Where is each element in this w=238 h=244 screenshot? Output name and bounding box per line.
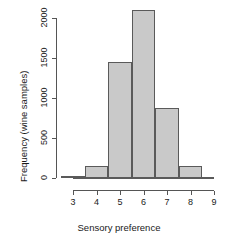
x-axis-tick	[167, 191, 168, 195]
x-axis-tick	[97, 191, 98, 195]
y-axis-tick	[52, 18, 56, 19]
baseline	[73, 177, 214, 179]
y-axis-tick	[52, 138, 56, 139]
y-axis-tick-label: 500	[40, 123, 49, 153]
x-axis-tick	[73, 191, 74, 195]
x-axis-tick-label: 5	[110, 198, 130, 207]
x-axis-tick-label: 9	[204, 198, 224, 207]
histogram-bar	[132, 10, 156, 178]
x-axis-tick-label: 4	[87, 198, 107, 207]
x-axis-tick	[214, 191, 215, 195]
x-axis-tick-label: 7	[157, 198, 177, 207]
x-axis-tick	[191, 191, 192, 195]
y-axis-tick-label: 0	[40, 163, 49, 193]
y-axis-tick-label: 2000	[40, 3, 49, 33]
histogram-chart: Frequency (wine samples) 050010001500200…	[0, 0, 238, 244]
y-axis-tick	[52, 58, 56, 59]
y-axis-tick-label: 1500	[40, 43, 49, 73]
y-axis-line	[56, 18, 57, 178]
x-axis-tick	[144, 191, 145, 195]
x-axis-tick-label: 3	[63, 198, 83, 207]
y-axis-label: Frequency (wine samples)	[19, 71, 29, 182]
x-axis-tick-label: 8	[181, 198, 201, 207]
x-axis-tick	[120, 191, 121, 195]
histogram-bar	[108, 62, 132, 178]
histogram-bar	[155, 108, 179, 178]
y-axis-tick	[52, 98, 56, 99]
y-axis-tick	[52, 178, 56, 179]
y-axis-tick-label: 1000	[40, 83, 49, 113]
x-axis-tick-label: 6	[134, 198, 154, 207]
x-axis-label: Sensory preference	[0, 222, 238, 233]
